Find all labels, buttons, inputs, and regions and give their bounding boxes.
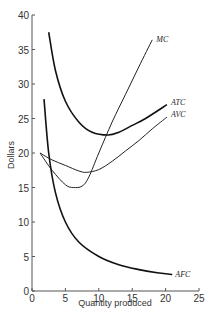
y-tick-label: 25 — [18, 114, 30, 125]
mc-curve — [40, 40, 152, 188]
curves — [40, 32, 172, 274]
y-axis-label: Dollars — [6, 141, 16, 170]
x-tick-label: 0 — [29, 293, 35, 304]
x-axis-label: Quantity produced — [78, 298, 152, 308]
y-tick-label: 40 — [18, 10, 30, 21]
y-tick-label: 5 — [23, 252, 29, 263]
x-tick-label: 25 — [193, 293, 205, 304]
y-tick-label: 10 — [18, 217, 30, 228]
x-tick-label: 5 — [63, 293, 69, 304]
y-tick-label: 20 — [18, 148, 30, 159]
avc-label: AVC — [170, 110, 186, 119]
atc-label: ATC — [170, 98, 186, 107]
atc-curve — [49, 32, 167, 135]
cost-curves-chart: 05101520250510152025303540 MCATCAVCAFC Q… — [0, 0, 211, 324]
y-tick-label: 30 — [18, 79, 30, 90]
y-tick-label: 15 — [18, 183, 30, 194]
y-tick-label: 35 — [18, 45, 30, 56]
mc-label: MC — [155, 35, 169, 44]
curve-labels: MCATCAVCAFC — [155, 35, 191, 280]
afc-curve — [44, 99, 172, 274]
y-tick-label: 0 — [23, 286, 29, 297]
afc-label: AFC — [174, 270, 191, 279]
x-tick-label: 20 — [160, 293, 172, 304]
avc-curve — [40, 117, 167, 172]
